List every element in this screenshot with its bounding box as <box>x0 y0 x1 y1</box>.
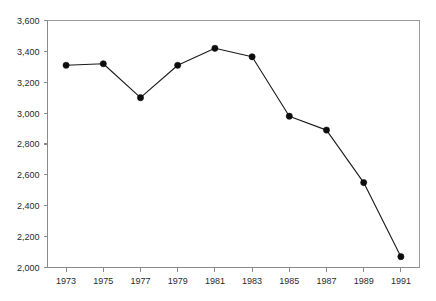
data-point-marker <box>137 95 143 101</box>
x-tick-label: 1981 <box>205 276 225 286</box>
data-point-marker <box>398 254 404 260</box>
x-tick-label: 1973 <box>56 276 76 286</box>
chart-canvas: 2,0002,2002,4002,6002,8003,0003,2003,400… <box>0 0 436 301</box>
y-tick-label: 2,000 <box>17 263 40 273</box>
y-tick-label: 2,600 <box>17 170 40 180</box>
data-point-marker <box>249 54 255 60</box>
y-tick-label: 3,400 <box>17 47 40 57</box>
data-point-marker <box>286 113 292 119</box>
data-point-marker <box>175 62 181 68</box>
y-tick-label: 2,200 <box>17 232 40 242</box>
y-tick-label: 3,000 <box>17 109 40 119</box>
data-point-marker <box>100 61 106 67</box>
y-tick-label: 2,400 <box>17 201 40 211</box>
y-tick-label: 3,200 <box>17 78 40 88</box>
chart-background <box>0 0 436 301</box>
y-tick-label: 2,800 <box>17 139 40 149</box>
x-tick-label: 1985 <box>279 276 299 286</box>
x-tick-label: 1979 <box>168 276 188 286</box>
x-tick-label: 1975 <box>93 276 113 286</box>
x-tick-label: 1983 <box>242 276 262 286</box>
data-point-marker <box>63 62 69 68</box>
data-point-marker <box>212 45 218 51</box>
data-point-marker <box>323 127 329 133</box>
x-tick-label: 1977 <box>130 276 150 286</box>
data-point-marker <box>361 179 367 185</box>
y-tick-label: 3,600 <box>17 16 40 26</box>
x-tick-label: 1991 <box>391 276 411 286</box>
line-chart: 2,0002,2002,4002,6002,8003,0003,2003,400… <box>0 0 436 301</box>
x-tick-label: 1989 <box>354 276 374 286</box>
x-tick-label: 1987 <box>316 276 336 286</box>
